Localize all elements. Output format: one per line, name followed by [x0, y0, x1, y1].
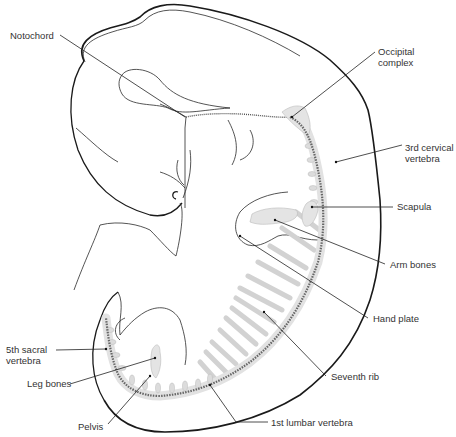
- label-occipital-complex: Occipital complex: [378, 46, 414, 68]
- label-occipital-line1: Occipital: [378, 46, 414, 57]
- pharyngeal-arches: [160, 120, 253, 208]
- heart-bulge: [74, 203, 182, 290]
- label-leg-bones: Leg bones: [27, 378, 71, 389]
- leg-bones-structure: [151, 345, 161, 378]
- head-outline: [82, 4, 381, 432]
- head-inner-outline: [83, 10, 300, 62]
- label-third-cervical-vertebra: 3rd cervical vertebra: [405, 142, 454, 164]
- label-occipital-line2: complex: [378, 57, 414, 68]
- notochord-structure: [186, 114, 290, 118]
- brain-vesicle: [119, 69, 230, 112]
- vertebral-column-band: [106, 112, 323, 396]
- label-sacral-line1: 5th sacral: [6, 344, 47, 355]
- otic-vesicle: [173, 192, 178, 199]
- scapula-structure: [302, 201, 318, 226]
- label-cervical-line1: 3rd cervical: [405, 142, 454, 153]
- label-fifth-sacral-vertebra: 5th sacral vertebra: [6, 344, 47, 366]
- label-pelvis: Pelvis: [78, 421, 103, 432]
- label-first-lumbar-vertebra: 1st lumbar vertebra: [271, 417, 353, 428]
- label-notochord: Notochord: [10, 30, 54, 41]
- label-hand-plate: Hand plate: [373, 313, 419, 324]
- label-seventh-rib: Seventh rib: [331, 371, 379, 382]
- arm-bones-structure: [250, 208, 298, 224]
- leader-lines: [56, 35, 402, 424]
- label-scapula: Scapula: [397, 201, 431, 212]
- label-arm-bones: Arm bones: [390, 259, 436, 270]
- label-cervical-line2: vertebra: [405, 153, 454, 164]
- notochord-junction: [160, 104, 186, 128]
- label-sacral-line2: vertebra: [6, 355, 47, 366]
- face-inner: [76, 128, 118, 162]
